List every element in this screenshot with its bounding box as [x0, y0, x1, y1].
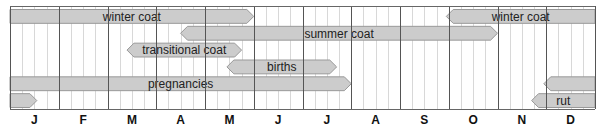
bar-label: winter coat [102, 10, 162, 24]
annual-cycle-timeline-chart: winter coatwinter coatsummer coattransit… [0, 0, 601, 129]
month-tick-label: S [420, 113, 428, 127]
bar-label: winter coat [491, 10, 551, 24]
month-tick-label: A [176, 113, 185, 127]
bar-label: transitional coat [142, 43, 227, 57]
month-tick-label: J [324, 113, 331, 127]
bar-label: pregnancies [148, 77, 213, 91]
month-tick-label: D [566, 113, 575, 127]
month-axis: JFMAMJJASOND [31, 113, 575, 127]
month-tick-label: F [79, 113, 86, 127]
month-tick-label: J [31, 113, 38, 127]
month-tick-label: N [518, 113, 527, 127]
month-tick-label: M [224, 113, 234, 127]
timeline-bars: winter coatwinter coatsummer coattransit… [10, 10, 595, 108]
unlabeled-bar [544, 77, 595, 91]
month-tick-label: J [275, 113, 282, 127]
month-tick-label: A [371, 113, 380, 127]
unlabeled-bar [10, 94, 37, 108]
bar-label: births [267, 60, 296, 74]
bar-label: summer coat [304, 27, 374, 41]
month-tick-label: O [468, 113, 477, 127]
bar-label: rut [556, 94, 571, 108]
month-tick-label: M [127, 113, 137, 127]
